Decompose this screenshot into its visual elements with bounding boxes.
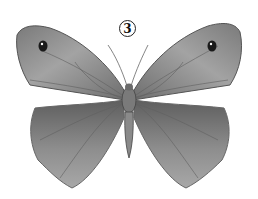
head — [125, 84, 133, 91]
abdomen — [125, 112, 134, 158]
left-eyespot — [39, 41, 48, 52]
butterfly-illustration: 3 — [0, 0, 258, 199]
thorax — [122, 87, 136, 113]
right-hindwing — [134, 100, 229, 188]
left-hindwing — [31, 100, 124, 188]
left-forewing — [17, 26, 125, 100]
right-eyespot — [208, 41, 217, 52]
right-forewing — [133, 24, 242, 100]
figure-number-badge: 3 — [119, 20, 136, 37]
